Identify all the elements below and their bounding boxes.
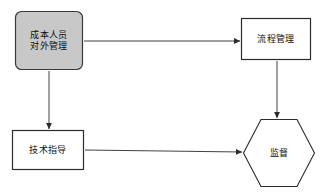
edge-technical-guidance-to-supervision [85,150,242,152]
flowchart-canvas: 成本人员 对外管理 流程管理 技术指导 监督 [0,0,320,192]
node-process-mgmt[interactable] [242,19,311,60]
node-cost-staff-external-mgmt[interactable] [16,12,83,70]
node-technical-guidance[interactable] [13,131,84,170]
node-supervision[interactable] [244,120,315,187]
node-layer [13,12,315,187]
flowchart-shapes-layer [0,0,320,192]
